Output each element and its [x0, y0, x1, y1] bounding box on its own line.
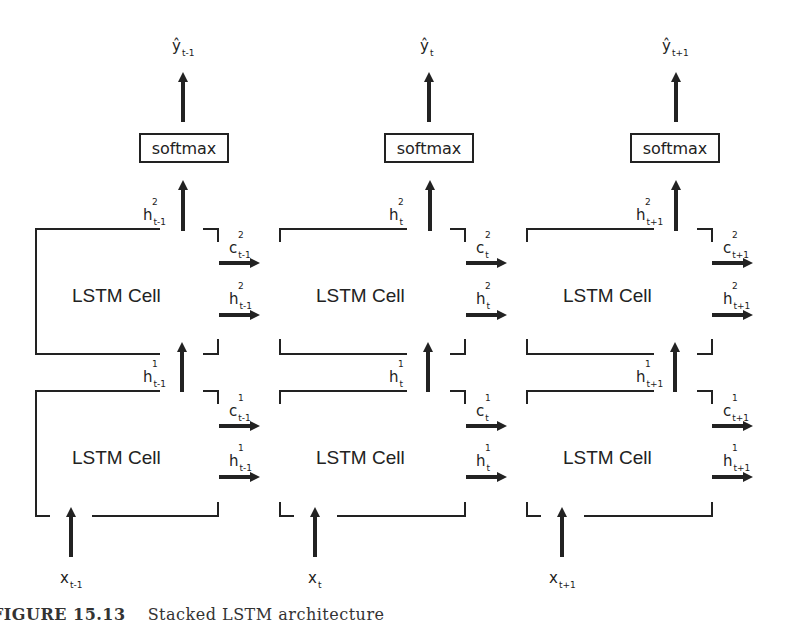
subscript: t-1	[238, 250, 251, 260]
symbol: h	[636, 368, 646, 386]
h1-up-label-t: h1t	[389, 369, 403, 385]
subscript: t+1	[732, 250, 749, 260]
output-label-t-1: ŷt-1	[172, 38, 194, 54]
figure-label: FIGURE 15.13	[0, 605, 126, 622]
superscript: 2	[485, 282, 491, 291]
output-subscript: t+1	[672, 48, 689, 58]
input-label-t+1: xt+1	[549, 570, 576, 586]
stacked-lstm-diagram	[0, 0, 795, 622]
symbol: h	[636, 206, 646, 224]
h2-up-label-t-1: h2t-1	[143, 207, 166, 223]
subscript: t+1	[734, 463, 751, 473]
subscript: t	[487, 301, 491, 311]
superscript: 1	[732, 394, 738, 403]
subscript: t-1	[154, 217, 167, 227]
superscript: 1	[645, 360, 651, 369]
c1-right-label-t+1: c1t+1	[723, 403, 749, 419]
subscript: t+1	[732, 413, 749, 423]
symbol: h	[143, 368, 153, 386]
lstm-cell-label-l1-t-1: LSTM Cell	[72, 447, 161, 469]
h2-up-label-t+1: h2t+1	[636, 207, 663, 223]
h1-right-label-t+1: h1t+1	[723, 453, 750, 469]
symbol: h	[389, 368, 399, 386]
softmax-box-t-1: softmax	[139, 133, 229, 163]
symbol: h	[476, 452, 486, 470]
c1-right-label-t-1: c1t-1	[229, 403, 251, 419]
c2-right-label-t: c2t	[476, 240, 489, 256]
superscript: 2	[645, 198, 651, 207]
output-label-t: ŷt	[420, 38, 433, 54]
symbol: c	[723, 402, 731, 420]
lstm-cell-label-l1-t+1: LSTM Cell	[563, 447, 652, 469]
figure-caption: FIGURE 15.13Stacked LSTM architecture	[0, 605, 385, 622]
c2-right-label-t-1: c2t-1	[229, 240, 251, 256]
symbol: x	[549, 569, 558, 587]
symbol: x	[308, 569, 317, 587]
c2-right-label-t+1: c2t+1	[723, 240, 749, 256]
superscript: 2	[238, 231, 244, 240]
symbol: c	[229, 239, 237, 257]
symbol: x	[60, 569, 69, 587]
lstm-cell-label-l1-t: LSTM Cell	[316, 447, 405, 469]
symbol: h	[143, 206, 153, 224]
subscript: t	[318, 580, 322, 590]
superscript: 2	[732, 282, 738, 291]
subscript: t	[485, 413, 489, 423]
h1-right-label-t: h1t	[476, 453, 490, 469]
symbol: c	[476, 402, 484, 420]
symbol: c	[723, 239, 731, 257]
superscript: 1	[398, 360, 404, 369]
subscript: t+1	[647, 217, 664, 227]
symbol: h	[723, 452, 733, 470]
softmax-box-t: softmax	[384, 133, 474, 163]
output-label-t+1: ŷt+1	[662, 38, 689, 54]
lstm-cell-label-l2-t+1: LSTM Cell	[563, 285, 652, 307]
h2-right-label-t-1: h2t-1	[229, 291, 252, 307]
input-label-t-1: xt-1	[60, 570, 82, 586]
output-symbol: ŷ	[662, 37, 671, 55]
h2-right-label-t+1: h2t+1	[723, 291, 750, 307]
symbol: h	[476, 290, 486, 308]
symbol: h	[723, 290, 733, 308]
superscript: 1	[732, 444, 738, 453]
subscript: t+1	[559, 580, 576, 590]
subscript: t-1	[240, 301, 253, 311]
subscript: t-1	[70, 580, 83, 590]
h1-up-label-t+1: h1t+1	[636, 369, 663, 385]
caption-text: Stacked LSTM architecture	[148, 605, 385, 622]
superscript: 2	[238, 282, 244, 291]
symbol: c	[229, 402, 237, 420]
superscript: 1	[152, 360, 158, 369]
symbol: h	[229, 290, 239, 308]
superscript: 1	[485, 444, 491, 453]
superscript: 1	[238, 394, 244, 403]
subscript: t+1	[647, 379, 664, 389]
subscript: t-1	[154, 379, 167, 389]
lstm-cell-label-l2-t-1: LSTM Cell	[72, 285, 161, 307]
output-symbol: ŷ	[420, 37, 429, 55]
output-symbol: ŷ	[172, 37, 181, 55]
output-subscript: t-1	[182, 48, 195, 58]
subscript: t	[485, 250, 489, 260]
superscript: 1	[485, 394, 491, 403]
subscript: t-1	[240, 463, 253, 473]
c1-right-label-t: c1t	[476, 403, 489, 419]
h1-up-label-t-1: h1t-1	[143, 369, 166, 385]
softmax-box-t+1: softmax	[630, 133, 720, 163]
output-subscript: t	[430, 48, 434, 58]
superscript: 2	[152, 198, 158, 207]
symbol: h	[229, 452, 239, 470]
h1-right-label-t-1: h1t-1	[229, 453, 252, 469]
subscript: t	[400, 217, 404, 227]
subscript: t	[400, 379, 404, 389]
subscript: t-1	[238, 413, 251, 423]
subscript: t+1	[734, 301, 751, 311]
lstm-cell-label-l2-t: LSTM Cell	[316, 285, 405, 307]
superscript: 2	[398, 198, 404, 207]
input-label-t: xt	[308, 570, 321, 586]
superscript: 1	[238, 444, 244, 453]
superscript: 2	[485, 231, 491, 240]
superscript: 2	[732, 231, 738, 240]
h2-right-label-t: h2t	[476, 291, 490, 307]
h2-up-label-t: h2t	[389, 207, 403, 223]
